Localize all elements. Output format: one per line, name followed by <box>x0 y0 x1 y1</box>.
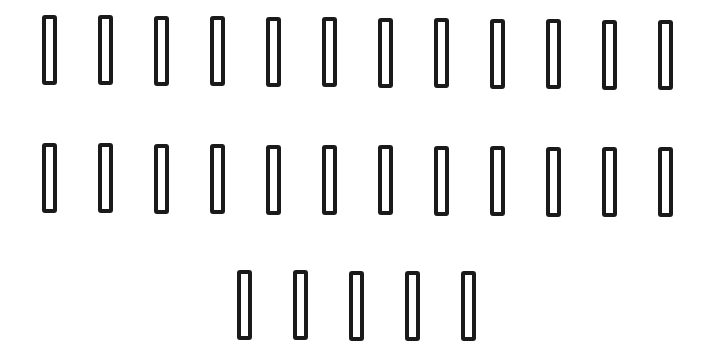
missing-glyph-box <box>546 19 561 89</box>
missing-glyph-box <box>293 270 308 340</box>
missing-glyph-box <box>378 145 393 215</box>
missing-glyph-box <box>546 147 561 217</box>
missing-glyph-box <box>434 18 449 88</box>
missing-glyph-box <box>602 20 617 90</box>
missing-glyph-box <box>266 17 281 87</box>
missing-glyph-box <box>405 271 420 341</box>
missing-glyph-box <box>602 147 617 217</box>
missing-glyph-box <box>490 19 505 89</box>
missing-glyph-box <box>210 16 225 86</box>
missing-glyph-box <box>154 16 169 86</box>
missing-glyph-box <box>154 144 169 214</box>
missing-glyph-box <box>461 271 476 341</box>
missing-glyph-box <box>658 20 673 90</box>
missing-glyph-box <box>349 271 364 341</box>
missing-glyph-box <box>98 143 113 213</box>
missing-glyph-box <box>237 270 252 340</box>
missing-glyph-box <box>42 15 57 85</box>
missing-glyph-box <box>434 146 449 216</box>
missing-glyph-box <box>98 15 113 85</box>
missing-glyph-box <box>322 17 337 87</box>
missing-glyph-box <box>378 18 393 88</box>
missing-glyph-box <box>490 146 505 216</box>
missing-glyph-box <box>658 147 673 217</box>
missing-glyph-box <box>266 145 281 215</box>
missing-glyph-box <box>322 145 337 215</box>
missing-glyph-box <box>42 143 57 213</box>
missing-glyph-box <box>210 144 225 214</box>
missing-glyph-text <box>0 0 719 360</box>
